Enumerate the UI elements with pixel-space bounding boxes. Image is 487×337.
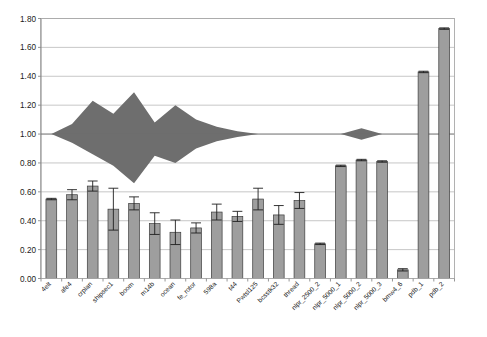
- bar: [46, 199, 57, 278]
- y-tick-label: 1.20: [20, 101, 36, 110]
- bar: [253, 199, 264, 278]
- bar: [439, 29, 450, 279]
- bar: [232, 216, 243, 278]
- bar-chart-with-envelope-band: 0.000.200.400.600.801.001.201.401.601.80…: [0, 0, 487, 337]
- bar: [315, 244, 326, 279]
- y-tick-label: 0.60: [20, 188, 36, 197]
- bar: [335, 166, 346, 279]
- bar: [67, 195, 78, 279]
- bar: [294, 201, 305, 279]
- x-axis-tickmarks-group: [41, 279, 455, 282]
- y-tick-label: 0.20: [20, 246, 36, 255]
- y-tick-label: 0.40: [20, 217, 36, 226]
- y-tick-label: 1.80: [20, 15, 36, 24]
- y-tick-label: 1.60: [20, 43, 36, 52]
- bar: [418, 72, 429, 279]
- y-tick-label: 1.40: [20, 72, 36, 81]
- bar: [87, 186, 98, 278]
- y-tick-label: 0.00: [20, 275, 36, 284]
- bar: [129, 203, 140, 278]
- bar: [356, 160, 367, 278]
- chart-container: 0.000.200.400.600.801.001.201.401.601.80…: [0, 0, 487, 337]
- y-tick-label: 0.80: [20, 159, 36, 168]
- bar: [211, 212, 222, 278]
- bar: [377, 162, 388, 279]
- y-tick-label: 1.00: [20, 130, 36, 139]
- bar: [191, 228, 202, 279]
